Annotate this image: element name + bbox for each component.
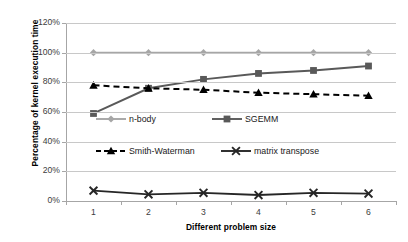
y-axis-tick-label: 0% [26, 196, 60, 205]
x-axis-tick-mark [341, 201, 342, 205]
y-axis-tick-label: 60% [26, 107, 60, 116]
triangle-marker-icon [96, 145, 126, 157]
cross-marker-icon [221, 145, 251, 157]
x-axis-tick-label: 2 [129, 207, 169, 217]
y-axis-tick-mark [62, 82, 66, 83]
gridline [66, 23, 396, 24]
series-sgemm [90, 63, 372, 117]
legend-item-matrix-transpose[interactable]: matrix transpose [221, 144, 319, 158]
legend-item-label: n-body [129, 114, 156, 124]
line-chart: Percentage of kernel execution time 0%20… [0, 0, 408, 242]
series-line [94, 66, 369, 113]
x-axis-tick-mark [176, 201, 177, 205]
square-marker-icon [212, 113, 242, 125]
x-axis-tick-mark [66, 201, 67, 205]
x-axis-tick-mark [286, 201, 287, 205]
y-axis-tick-label: 120% [26, 18, 60, 27]
x-axis-title: Different problem size [66, 222, 396, 232]
series-line [94, 191, 369, 195]
legend-item-smith-waterman[interactable]: Smith-Waterman [96, 144, 195, 158]
gridline [66, 53, 396, 54]
gridline [66, 82, 396, 83]
x-axis-tick-label: 4 [239, 207, 279, 217]
y-axis-tick-mark [62, 112, 66, 113]
data-point-marker [365, 63, 372, 70]
y-axis-tick-label: 40% [26, 137, 60, 146]
x-axis-tick-label: 6 [349, 207, 389, 217]
series-matrix-transpose [90, 187, 373, 199]
legend-item-label: Smith-Waterman [129, 146, 195, 156]
x-axis-tick-label: 1 [74, 207, 114, 217]
x-axis-tick-label: 3 [184, 207, 224, 217]
data-point-marker [255, 70, 262, 77]
x-axis-tick-mark [231, 201, 232, 205]
y-axis-tick-mark [62, 171, 66, 172]
x-axis-tick-label: 5 [294, 207, 334, 217]
gridline [66, 142, 396, 143]
x-axis-tick-mark [396, 201, 397, 205]
y-axis-tick-mark [62, 53, 66, 54]
x-axis-tick-mark [121, 201, 122, 205]
diamond-marker-icon [96, 113, 126, 125]
y-axis-tick-mark [62, 23, 66, 24]
legend-item-n-body[interactable]: n-body [96, 112, 156, 126]
legend-item-label: SGEMM [245, 114, 278, 124]
y-axis-tick-label: 80% [26, 77, 60, 86]
gridline [66, 171, 396, 172]
legend-item-label: matrix transpose [254, 146, 319, 156]
y-axis-tick-mark [62, 142, 66, 143]
y-axis-tick-label: 100% [26, 48, 60, 57]
y-axis-tick-label: 20% [26, 166, 60, 175]
y-axis-tick-labels: 0%20%40%60%80%100%120% [22, 0, 60, 242]
legend-item-sgemm[interactable]: SGEMM [212, 112, 278, 126]
data-point-marker [310, 67, 317, 74]
